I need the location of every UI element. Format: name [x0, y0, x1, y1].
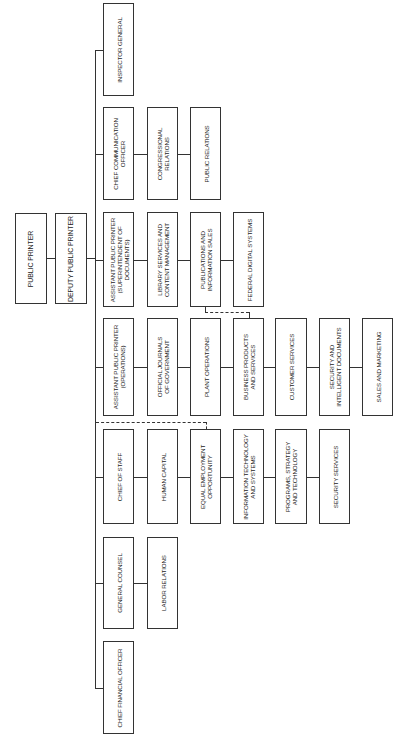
connector-public-to-deputy	[47, 258, 55, 259]
connector-chief-of-staff-child-3	[264, 477, 275, 478]
box-chief-financial-officer[interactable]: CHIEF FINANCIAL OFFICER	[103, 641, 134, 734]
box-label: CUSTOMER SERVICES	[288, 334, 295, 401]
box-label: LIBRARY SERVICES AND CONTENT MANAGEMENT	[156, 222, 170, 296]
connector-chief-of-staff-child-2	[221, 477, 233, 478]
connector-deputy-to-spine	[87, 258, 95, 259]
box-label: OFFICIAL JOURNALS OF GOVERNMENT	[156, 337, 170, 398]
box-chief-communication-officer[interactable]: CHIEF COMMUNICATION OFFICER	[103, 107, 134, 200]
connector-chief-of-staff-child-0	[134, 477, 147, 478]
box-deputy-public-printer[interactable]: DEPUTY PUBLIC PRINTER	[55, 213, 87, 304]
connector-chief-communication-officer-child-1	[178, 154, 190, 155]
box-programs-strategy-and-technology[interactable]: PROGRAMS, STRATEGY AND TECHNOLOGY	[275, 429, 307, 524]
connector-operations-child-2	[221, 367, 233, 368]
box-label: CONGRESSIONAL RELATIONS	[156, 127, 170, 180]
connector-operations-child-5	[350, 367, 362, 368]
dotted-link-staff-to-eeo	[96, 422, 206, 423]
box-label: SECURITY AND INTELLIGENT DOCUMENTS	[328, 327, 342, 406]
box-library-services-and-content-management[interactable]: LIBRARY SERVICES AND CONTENT MANAGEMENT	[147, 212, 178, 307]
dotted-link-bps-drop	[249, 312, 250, 318]
box-label: ASSISTANT PUBLIC PRINTER (SUPERINTENDENT…	[108, 217, 129, 301]
box-label: GENERAL COUNSEL	[115, 553, 122, 612]
connector-superintendent-of-documents-child-0	[134, 260, 147, 261]
box-superintendent-of-documents[interactable]: ASSISTANT PUBLIC PRINTER (SUPERINTENDENT…	[103, 212, 134, 307]
connector-operations-child-1	[178, 367, 190, 368]
box-label: HUMAN CAPITAL	[159, 452, 166, 500]
box-label: CHIEF FINANCIAL OFFICER	[115, 648, 122, 727]
box-label: LABOR RELATIONS	[159, 555, 166, 611]
box-label: PUBLIC PRINTER	[27, 230, 35, 287]
connector-spine-to-chief-of-staff	[95, 477, 103, 478]
connector-chief-of-staff-child-4	[306, 477, 319, 478]
box-human-capital[interactable]: HUMAN CAPITAL	[147, 429, 178, 524]
box-public-printer[interactable]: PUBLIC PRINTER	[15, 213, 47, 304]
box-business-products-and-services[interactable]: BUSINESS PRODUCTS AND SERVICES	[233, 318, 264, 416]
dotted-link-staff-to-eeo-drop	[206, 422, 207, 429]
org-chart: PUBLIC PRINTER DEPUTY PUBLIC PRINTER INS…	[0, 0, 401, 745]
box-plant-operations[interactable]: PLANT OPERATIONS	[190, 318, 221, 416]
connector-general-counsel-child-0	[134, 583, 147, 584]
box-information-technology-and-systems[interactable]: INFORMATION TECHNOLOGY AND SYSTEMS	[233, 429, 264, 524]
box-security-services[interactable]: SECURITY SERVICES	[319, 429, 350, 524]
connector-operations-child-0	[134, 367, 147, 368]
connector-operations-child-3	[264, 367, 275, 368]
box-label: PLANT OPERATIONS	[202, 337, 209, 397]
connector-spine-to-inspector-general	[95, 50, 103, 51]
connector-chief-communication-officer-child-0	[134, 154, 147, 155]
box-inspector-general[interactable]: INSPECTOR GENERAL	[103, 3, 134, 96]
connector-operations-child-4	[306, 367, 319, 368]
connector-spine-to-chief-communication-officer	[95, 154, 103, 155]
box-public-relations[interactable]: PUBLIC RELATIONS	[190, 107, 221, 200]
box-label: ASSISTANT PUBLIC PRINTER (OPERATIONS)	[112, 325, 126, 409]
box-general-counsel[interactable]: GENERAL COUNSEL	[103, 537, 134, 629]
box-label: EQUAL EMPLOYMENT OPPORTUNITY	[199, 444, 213, 508]
box-label: DEPUTY PUBLIC PRINTER	[67, 215, 75, 301]
box-customer-services[interactable]: CUSTOMER SERVICES	[275, 318, 307, 416]
connector-superintendent-of-documents-child-2	[221, 260, 233, 261]
box-label: PUBLIC RELATIONS	[202, 125, 209, 182]
box-label: SALES AND MARKETING	[374, 332, 381, 403]
box-publications-and-information-sales[interactable]: PUBLICATIONS AND INFORMATION SALES	[190, 212, 221, 307]
box-security-and-intelligent-documents[interactable]: SECURITY AND INTELLIGENT DOCUMENTS	[319, 318, 350, 416]
box-label: CHIEF COMMUNICATION OFFICER	[112, 118, 126, 190]
box-label: FEDERAL DIGITAL SYSTEMS	[245, 218, 252, 300]
box-label: INFORMATION TECHNOLOGY AND SYSTEMS	[242, 434, 256, 520]
box-official-journals-of-government[interactable]: OFFICIAL JOURNALS OF GOVERNMENT	[147, 318, 178, 416]
box-federal-digital-systems[interactable]: FEDERAL DIGITAL SYSTEMS	[233, 212, 264, 307]
connector-spine-to-operations	[95, 367, 103, 368]
box-chief-of-staff[interactable]: CHIEF OF STAFF	[103, 429, 134, 524]
connector-spine-to-superintendent-of-documents	[95, 260, 103, 261]
box-labor-relations[interactable]: LABOR RELATIONS	[147, 537, 178, 629]
dotted-link-pubsales-to-bps	[205, 312, 249, 313]
connector-chief-of-staff-child-1	[178, 477, 190, 478]
box-label: PUBLICATIONS AND INFORMATION SALES	[199, 228, 213, 291]
main-spine	[95, 51, 96, 688]
box-sales-and-marketing[interactable]: SALES AND MARKETING	[362, 318, 393, 416]
box-operations[interactable]: ASSISTANT PUBLIC PRINTER (OPERATIONS)	[103, 318, 134, 416]
connector-spine-to-chief-financial-officer	[95, 688, 103, 689]
box-label: INSPECTOR GENERAL	[115, 17, 122, 83]
box-label: BUSINESS PRODUCTS AND SERVICES	[242, 334, 256, 400]
box-label: SECURITY SERVICES	[331, 445, 338, 507]
box-label: PROGRAMS, STRATEGY AND TECHNOLOGY	[284, 441, 298, 512]
box-equal-employment-opportunity[interactable]: EQUAL EMPLOYMENT OPPORTUNITY	[190, 429, 221, 524]
connector-superintendent-of-documents-child-1	[178, 260, 190, 261]
box-congressional-relations[interactable]: CONGRESSIONAL RELATIONS	[147, 107, 178, 200]
connector-spine-to-general-counsel	[95, 583, 103, 584]
box-label: CHIEF OF STAFF	[115, 452, 122, 500]
